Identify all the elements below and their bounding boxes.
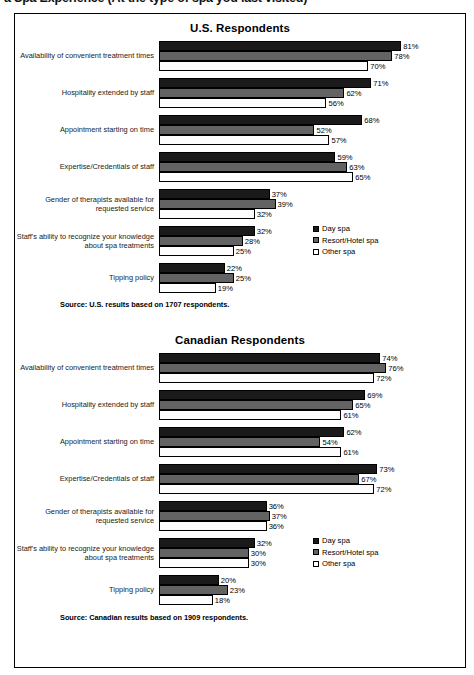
bar-fill — [159, 447, 341, 457]
bar-value-label: 25% — [234, 247, 251, 256]
canada-chart-legend: Day spaResort/Hotel spaOther spa — [313, 535, 379, 570]
category-bar-group: 73%67%72% — [159, 464, 465, 494]
bar-value-label: 39% — [276, 200, 293, 209]
category-bar-group: 32%28%25% — [159, 226, 465, 256]
bar-value-label: 37% — [270, 512, 287, 521]
bar-value-label: 78% — [392, 52, 409, 61]
bar-fill — [159, 410, 341, 420]
legend-item-day-spa: Day spa — [313, 535, 379, 547]
bar-value-label: 37% — [270, 190, 287, 199]
bar-fill — [159, 98, 326, 108]
bar-fill — [159, 595, 213, 605]
bar-day-spa: 81% — [159, 41, 465, 51]
bar-day-spa: 73% — [159, 464, 465, 474]
category-label: Tipping policy — [15, 273, 159, 282]
bar-fill — [159, 135, 329, 145]
bar-other-spa: 72% — [159, 484, 465, 494]
category-bar-group: 36%37%36% — [159, 501, 465, 531]
chart-category-group: Staff's ability to recognize your knowle… — [15, 538, 465, 568]
category-bar-group: 81%78%70% — [159, 41, 465, 71]
bar-resort-hotel-spa: 63% — [159, 162, 465, 172]
bar-fill — [159, 427, 344, 437]
category-label: Hospitality extended by staff — [15, 88, 159, 97]
bar-fill — [159, 474, 359, 484]
bar-other-spa: 56% — [159, 98, 465, 108]
bar-day-spa: 20% — [159, 575, 465, 585]
bar-fill — [159, 172, 353, 182]
legend-item-other-spa: Other spa — [313, 246, 379, 258]
bar-fill — [159, 548, 249, 558]
bar-fill — [159, 152, 335, 162]
chart-category-group: Gender of therapists available for reque… — [15, 189, 465, 219]
bar-value-label: 72% — [374, 485, 391, 494]
chart-category-group: Availability of convenient treatment tim… — [15, 41, 465, 71]
bar-value-label: 61% — [341, 448, 358, 457]
bar-value-label: 36% — [267, 502, 284, 511]
bar-value-label: 74% — [380, 354, 397, 363]
legend-swatch-icon — [313, 237, 319, 243]
bar-other-spa: 19% — [159, 283, 465, 293]
bar-value-label: 68% — [362, 116, 379, 125]
bar-value-label: 59% — [335, 153, 352, 162]
category-bar-group: 74%76%72% — [159, 353, 465, 383]
bar-value-label: 54% — [320, 438, 337, 447]
bar-value-label: 30% — [249, 559, 266, 568]
bar-value-label: 28% — [243, 237, 260, 246]
bar-day-spa: 32% — [159, 538, 465, 548]
chart-category-group: Expertise/Credentials of staff73%67%72% — [15, 464, 465, 494]
chart-category-group: Tipping policy20%23%18% — [15, 575, 465, 605]
bar-fill — [159, 236, 243, 246]
category-label: Hospitality extended by staff — [15, 400, 159, 409]
chart-category-group: Staff's ability to recognize your knowle… — [15, 226, 465, 256]
bar-fill — [159, 390, 365, 400]
bar-day-spa: 62% — [159, 427, 465, 437]
bar-resort-hotel-spa: 39% — [159, 199, 465, 209]
bar-fill — [159, 162, 347, 172]
bar-resort-hotel-spa: 37% — [159, 511, 465, 521]
bar-value-label: 22% — [225, 264, 242, 273]
bar-value-label: 57% — [329, 136, 346, 145]
bar-other-spa: 61% — [159, 447, 465, 457]
bar-resort-hotel-spa: 76% — [159, 363, 465, 373]
bar-value-label: 70% — [368, 62, 385, 71]
bar-fill — [159, 273, 234, 283]
bar-other-spa: 65% — [159, 172, 465, 182]
bar-value-label: 62% — [344, 89, 361, 98]
legend-label: Day spa — [322, 223, 350, 235]
bar-day-spa: 37% — [159, 189, 465, 199]
bar-other-spa: 30% — [159, 558, 465, 568]
category-label: Tipping policy — [15, 585, 159, 594]
bar-value-label: 81% — [401, 42, 418, 51]
legend-item-other-spa: Other spa — [313, 558, 379, 570]
bar-value-label: 20% — [219, 576, 236, 585]
category-bar-group: 32%30%30% — [159, 538, 465, 568]
bar-day-spa: 74% — [159, 353, 465, 363]
bar-day-spa: 36% — [159, 501, 465, 511]
bar-value-label: 73% — [377, 465, 394, 474]
bar-resort-hotel-spa: 65% — [159, 400, 465, 410]
bar-fill — [159, 209, 255, 219]
bar-fill — [159, 363, 386, 373]
bar-resort-hotel-spa: 62% — [159, 88, 465, 98]
legend-label: Other spa — [322, 558, 355, 570]
us-chart-title: U.S. Respondents — [15, 22, 465, 34]
chart-category-group: Appointment starting on time68%52%57% — [15, 115, 465, 145]
page-headline: a Spa Experience (At the type of spa you… — [4, 0, 464, 5]
bar-fill — [159, 263, 225, 273]
bar-resort-hotel-spa: 28% — [159, 236, 465, 246]
category-bar-group: 71%62%56% — [159, 78, 465, 108]
legend-item-day-spa: Day spa — [313, 223, 379, 235]
category-label: Availability of convenient treatment tim… — [15, 51, 159, 60]
category-bar-group: 69%65%61% — [159, 390, 465, 420]
bar-value-label: 63% — [347, 163, 364, 172]
bar-fill — [159, 501, 267, 511]
category-label: Expertise/Credentials of staff — [15, 474, 159, 483]
legend-label: Day spa — [322, 535, 350, 547]
bar-other-spa: 61% — [159, 410, 465, 420]
bar-fill — [159, 51, 392, 61]
canada-chart-title: Canadian Respondents — [15, 334, 465, 346]
bar-value-label: 71% — [371, 79, 388, 88]
bar-resort-hotel-spa: 67% — [159, 474, 465, 484]
us-respondents-panel: U.S. Respondents Availability of conveni… — [15, 14, 465, 309]
bar-resort-hotel-spa: 78% — [159, 51, 465, 61]
